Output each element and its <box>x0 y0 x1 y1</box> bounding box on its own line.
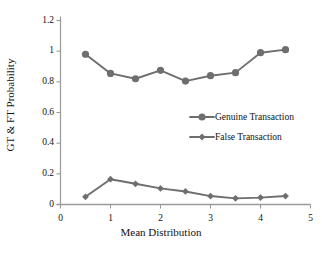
y-axis-tick-label: 0.4 <box>24 138 54 148</box>
data-point-marker <box>107 70 114 77</box>
x-axis-tick-label: 2 <box>158 214 163 224</box>
y-axis-label: GT & FT Probability <box>4 59 16 152</box>
y-axis-label-container: GT & FT Probability <box>2 0 18 210</box>
legend-marker <box>198 113 205 120</box>
y-axis-tick-label: 0.8 <box>24 77 54 87</box>
data-series <box>82 46 289 202</box>
y-axis-tick-label: 1 <box>24 46 54 56</box>
data-point-marker <box>157 67 164 74</box>
y-axis-tick-label: 1.2 <box>24 16 54 26</box>
x-axis-label: Mean Distribution <box>0 226 322 238</box>
data-point-marker <box>232 195 239 202</box>
data-point-marker <box>282 46 289 53</box>
y-axis-tick-label: 0.2 <box>24 169 54 179</box>
legend-label-false-transaction: False Transaction <box>215 132 282 142</box>
series-line-genuine-transaction <box>86 50 286 81</box>
data-point-marker <box>132 75 139 82</box>
data-point-marker <box>132 180 139 187</box>
legend-label-genuine-transaction: Genuine Transaction <box>215 112 294 122</box>
legend-marker <box>199 134 206 141</box>
y-axis-tick-label: 0.6 <box>24 108 54 118</box>
x-axis-tick-label: 0 <box>58 214 63 224</box>
x-axis-tick-label: 3 <box>208 214 213 224</box>
data-point-marker <box>282 193 289 200</box>
data-point-marker <box>232 69 239 76</box>
data-point-marker <box>257 194 264 201</box>
chart-figure: GT & FT Probability Mean Distribution 00… <box>0 0 322 253</box>
data-point-marker <box>182 77 189 84</box>
data-point-marker <box>207 72 214 79</box>
x-axis-tick-label: 4 <box>258 214 263 224</box>
data-point-marker <box>82 51 89 58</box>
data-point-marker <box>207 193 214 200</box>
x-axis-tick-label: 5 <box>308 214 313 224</box>
legend-markers <box>190 113 214 140</box>
data-point-marker <box>157 185 164 192</box>
y-axis-tick-label: 0 <box>24 200 54 210</box>
data-point-marker <box>257 49 264 56</box>
x-axis-tick-label: 1 <box>108 214 113 224</box>
data-point-marker <box>182 188 189 195</box>
